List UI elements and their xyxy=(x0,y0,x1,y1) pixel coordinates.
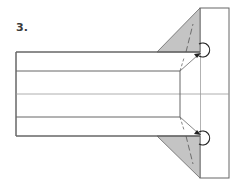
top-shaded-triangle xyxy=(157,8,200,52)
bottom-shaded-triangle xyxy=(157,136,200,178)
right-panel xyxy=(200,8,229,178)
origami-diagram xyxy=(0,0,237,189)
